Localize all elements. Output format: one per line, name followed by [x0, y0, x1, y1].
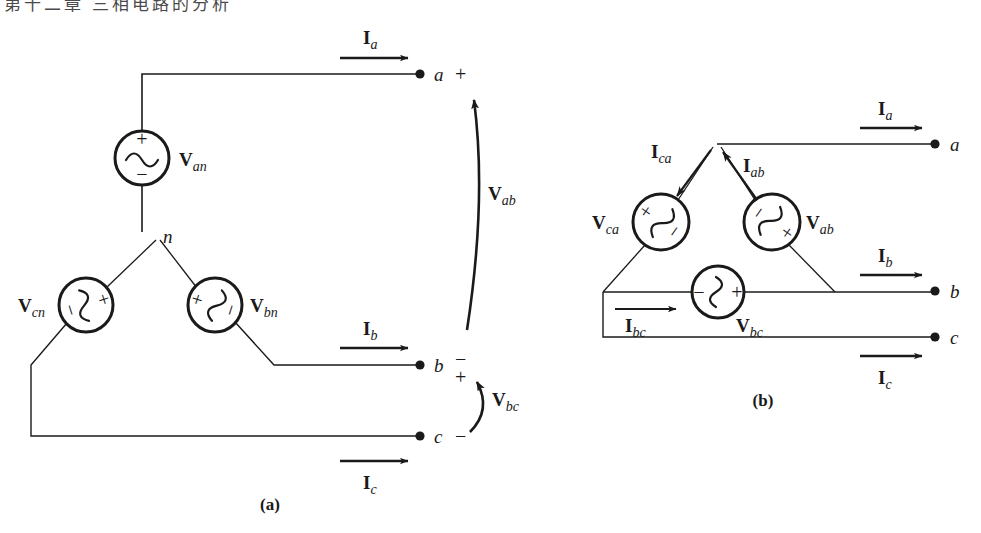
subfigure-b-delta: + − Vca + − Vab: [592, 98, 960, 410]
vcn-label-bold: V: [18, 295, 32, 316]
wye-terminal-a-letter: a: [434, 64, 444, 85]
delta-terminal-a-letter: a: [950, 134, 960, 155]
vab-label-bold: V: [806, 212, 820, 233]
ica-label-sub: ca: [658, 151, 671, 166]
source-vca-label: Vca: [592, 212, 619, 237]
source-vca: + − Vca: [592, 191, 693, 252]
source-van-label: Van: [179, 149, 207, 174]
delta-phase-c-conductor: [603, 292, 933, 337]
delta-phase-iab-label: Iab: [743, 155, 764, 180]
ib-label-sub: b: [370, 328, 377, 343]
vcn-label-sub: cn: [32, 305, 45, 320]
wye-neutral-node: n: [163, 226, 173, 247]
figure-page: 第十二章 三相电路的分析: [0, 0, 981, 533]
delta-terminal-b-letter: b: [950, 281, 960, 302]
wye-voltage-vab-label: Vab: [488, 183, 516, 208]
vbn-label-sub: bn: [264, 305, 278, 320]
ic-label-bold: I: [363, 472, 370, 493]
vbc-label-sub: bc: [750, 325, 764, 340]
wye-current-arrow-ib: Ib: [340, 318, 408, 348]
source-vcn-label: Vcn: [18, 295, 45, 320]
three-phase-source-diagram: + − Van + − Vcn: [0, 0, 981, 533]
wye-phase-c-conductor: [31, 323, 418, 436]
delta-terminal-a: a: [930, 134, 959, 155]
source-vbc-label: Vbc: [736, 315, 764, 340]
delta-phase-ibc-label: Ibc: [625, 315, 646, 340]
source-vab-label: Vab: [806, 212, 834, 237]
wye-current-ic-label: Ic: [363, 472, 377, 497]
source-van: + − Van: [115, 128, 207, 185]
van-label-bold: V: [179, 149, 193, 170]
delta-ib-label-sub: b: [885, 255, 892, 270]
delta-ic-label-bold: I: [878, 367, 885, 388]
delta-terminal-b: b: [930, 281, 959, 302]
van-label-sub: an: [193, 159, 207, 174]
van-plus-sign: +: [136, 128, 147, 150]
vbn-label-bold: V: [250, 295, 264, 316]
vca-label-sub: ca: [606, 222, 619, 237]
wye-terminal-c: c −: [415, 425, 466, 447]
delta-current-arrow-ic: Ic: [860, 356, 922, 392]
source-vcn: + − Vcn: [18, 278, 119, 332]
van-minus-sign: −: [136, 163, 147, 185]
delta-current-ic-label: Ic: [878, 367, 892, 392]
ib-label-bold: I: [363, 318, 370, 339]
caption-a: (a): [260, 495, 280, 514]
wye-terminal-b: b − +: [415, 348, 466, 388]
source-vbn: + − Vbn: [182, 278, 278, 332]
ibc-label-bold: I: [625, 315, 632, 336]
vab-arc-label-bold: V: [488, 183, 502, 204]
vca-label-bold: V: [592, 212, 606, 233]
wye-current-arrow-ic: Ic: [340, 461, 408, 497]
delta-current-ib-label: Ib: [878, 245, 892, 270]
wye-current-ib-label: Ib: [363, 318, 377, 343]
wye-current-arrow-ia: Ia: [340, 27, 408, 58]
delta-phase-current-iab: Iab: [723, 152, 764, 200]
delta-current-ia-label: Ia: [878, 98, 892, 123]
source-vbc: − + Vbc: [692, 266, 764, 340]
wye-terminal-c-sign: −: [455, 425, 466, 447]
wye-neutral-branches: [106, 240, 197, 288]
wye-voltage-vbc-label: Vbc: [492, 389, 520, 414]
iab-label-bold: I: [743, 155, 750, 176]
wye-terminal-b-sign-bottom: +: [455, 366, 466, 388]
delta-current-arrow-ia: Ia: [860, 98, 922, 128]
wye-terminal-a: a +: [415, 63, 466, 85]
wye-voltage-arc-vab: Vab: [467, 100, 516, 330]
wye-terminal-b-letter: b: [434, 355, 444, 376]
delta-phase-ica-label: Ica: [651, 141, 672, 166]
wye-phase-b-conductor: [235, 322, 418, 365]
delta-terminal-c-letter: c: [950, 327, 959, 348]
ia-label-bold: I: [363, 27, 370, 48]
vab-label-sub: ab: [820, 222, 834, 237]
iab-label-sub: ab: [750, 165, 764, 180]
caption-b: (b): [753, 391, 774, 410]
ia-label-sub: a: [370, 37, 377, 52]
vbc-label-bold: V: [736, 315, 750, 336]
vbc-arc-label-bold: V: [492, 389, 506, 410]
wye-terminal-c-letter: c: [434, 426, 443, 447]
wye-voltage-arc-vbc: Vbc: [470, 382, 520, 432]
delta-ia-label-sub: a: [885, 108, 892, 123]
neutral-node-label: n: [163, 226, 173, 247]
vab-arc-label-sub: ab: [502, 193, 516, 208]
delta-phase-current-ibc: Ibc: [615, 309, 676, 340]
delta-terminal-c: c: [930, 327, 959, 348]
source-vbn-label: Vbn: [250, 295, 278, 320]
delta-ic-label-sub: c: [885, 377, 892, 392]
vbc-minus-sign: −: [693, 281, 704, 303]
ica-label-bold: I: [651, 141, 658, 162]
vbc-plus-sign: +: [731, 281, 742, 303]
delta-current-arrow-ib: Ib: [860, 245, 922, 275]
wye-phase-a-conductor: [142, 74, 418, 131]
delta-ib-label-bold: I: [878, 245, 885, 266]
subfigure-a-wye: + − Van + − Vcn: [18, 27, 520, 514]
wye-terminal-a-sign: +: [455, 63, 466, 85]
vbc-arc-label-sub: bc: [506, 399, 520, 414]
delta-ia-label-bold: I: [878, 98, 885, 119]
delta-phase-current-ica: Ica: [651, 141, 711, 196]
ibc-label-sub: bc: [632, 325, 646, 340]
ic-label-sub: c: [370, 482, 377, 497]
source-vab: + − Vab: [740, 193, 834, 254]
wye-current-ia-label: Ia: [363, 27, 377, 52]
